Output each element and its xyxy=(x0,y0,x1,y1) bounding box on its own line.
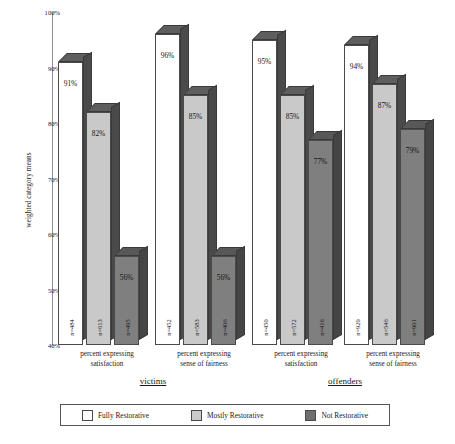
legend: Fully Restorative Mostly Restorative Not… xyxy=(60,404,390,426)
category-label-offenders-fairness: percent expressing sense of fairness xyxy=(340,349,446,369)
category-line-1: percent expressing xyxy=(340,349,446,359)
bar-mostly-group-4: 87%n=546 xyxy=(372,84,397,345)
bar-value-label: 87% xyxy=(372,101,397,110)
bar-n-label: n=452 xyxy=(164,319,171,335)
bar-n-label: n=495 xyxy=(123,319,130,335)
bar-mostly-group-3: 85%n=572 xyxy=(280,95,305,345)
bar-front-face xyxy=(344,45,369,345)
bar-value-label: 94% xyxy=(344,62,369,71)
bar-value-label: 96% xyxy=(155,51,180,60)
bar-n-label: n=484 xyxy=(67,319,74,335)
bar-n-label: n=583 xyxy=(192,319,199,335)
bar-n-label: n=901 xyxy=(409,319,416,335)
bar-fully-group-3: 95%n=450 xyxy=(252,40,277,345)
bar-front-face xyxy=(183,95,208,345)
bar-front-face xyxy=(252,40,277,345)
category-line-1: percent expressing xyxy=(54,349,160,359)
group-label-offenders: offenders xyxy=(280,376,410,386)
bar-value-label: 56% xyxy=(114,273,139,282)
category-line-2: satisfaction xyxy=(54,359,160,369)
legend-swatch-icon-fully xyxy=(82,410,93,421)
category-line-2: sense of fairness xyxy=(340,359,446,369)
bar-front-face xyxy=(280,95,305,345)
legend-label-mostly: Mostly Restorative xyxy=(207,411,263,420)
bar-side-face xyxy=(139,246,148,340)
y-tick-mark xyxy=(52,345,56,346)
bar-front-face xyxy=(155,34,180,345)
bar-side-face xyxy=(333,129,342,340)
bar-n-label: n=416 xyxy=(317,319,324,335)
bar-value-label: 95% xyxy=(252,57,277,66)
bar-n-label: n=613 xyxy=(95,319,102,335)
group-label-victims: victims xyxy=(88,376,218,386)
bar-front-face xyxy=(86,112,111,345)
legend-label-not: Not Restorative xyxy=(321,411,368,420)
bar-value-label: 85% xyxy=(280,112,305,121)
bar-n-label: n=920 xyxy=(353,319,360,335)
bar-n-label: n=450 xyxy=(261,319,268,335)
legend-swatch-icon-not xyxy=(305,410,316,421)
bar-n-label: n=406 xyxy=(220,319,227,335)
bar-value-label: 91% xyxy=(58,79,83,88)
bar-value-label: 82% xyxy=(86,129,111,138)
figure-chart: weighted category means 100% 90% 80% 70%… xyxy=(0,0,455,444)
bar-not-group-3: 77%n=416 xyxy=(308,140,333,345)
bar-not-group-2: 56%n=406 xyxy=(211,256,236,345)
bar-n-label: n=546 xyxy=(381,319,388,335)
category-line-1: percent expressing xyxy=(151,349,257,359)
category-label-victims-satisfaction: percent expressing satisfaction xyxy=(54,349,160,369)
legend-item-mostly-restorative: Mostly Restorative xyxy=(191,410,263,421)
bar-not-group-4: 79%n=901 xyxy=(400,129,425,345)
bar-value-label: 79% xyxy=(400,146,425,155)
bar-mostly-group-2: 85%n=583 xyxy=(183,95,208,345)
bar-not-group-1: 56%n=495 xyxy=(114,256,139,345)
category-label-victims-fairness: percent expressing sense of fairness xyxy=(151,349,257,369)
category-line-2: satisfaction xyxy=(248,359,354,369)
bar-front-face xyxy=(400,129,425,345)
legend-item-not-restorative: Not Restorative xyxy=(305,410,368,421)
plot-area: 91%n=48482%n=61356%n=49596%n=45285%n=583… xyxy=(53,12,443,345)
bar-n-label: n=572 xyxy=(289,319,296,335)
bar-front-face xyxy=(372,84,397,345)
legend-swatch-icon-mostly xyxy=(191,410,202,421)
legend-label-fully: Fully Restorative xyxy=(98,411,149,420)
bar-fully-group-1: 91%n=484 xyxy=(58,62,83,345)
category-label-offenders-satisfaction: percent expressing satisfaction xyxy=(248,349,354,369)
bar-value-label: 77% xyxy=(308,157,333,166)
bar-side-face xyxy=(236,246,245,340)
bar-side-face xyxy=(425,118,434,340)
bar-mostly-group-1: 82%n=613 xyxy=(86,112,111,345)
bar-front-face xyxy=(308,140,333,345)
y-axis-title: weighted category means xyxy=(25,120,33,260)
category-line-2: sense of fairness xyxy=(151,359,257,369)
bar-fully-group-4: 94%n=920 xyxy=(344,45,369,345)
category-line-1: percent expressing xyxy=(248,349,354,359)
legend-item-fully-restorative: Fully Restorative xyxy=(82,410,149,421)
bar-fully-group-2: 96%n=452 xyxy=(155,34,180,345)
bar-value-label: 85% xyxy=(183,112,208,121)
bar-value-label: 56% xyxy=(211,273,236,282)
bar-front-face xyxy=(58,62,83,345)
